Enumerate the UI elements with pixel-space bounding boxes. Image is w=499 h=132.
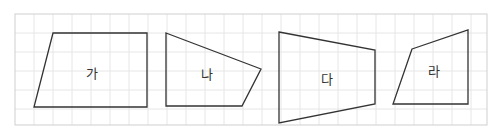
label-ga: 가 xyxy=(86,63,98,82)
shape-na xyxy=(166,33,261,106)
label-ra: 라 xyxy=(428,61,440,80)
label-da: 다 xyxy=(321,69,333,88)
grid-diagram xyxy=(0,0,499,132)
label-na: 나 xyxy=(201,64,213,83)
